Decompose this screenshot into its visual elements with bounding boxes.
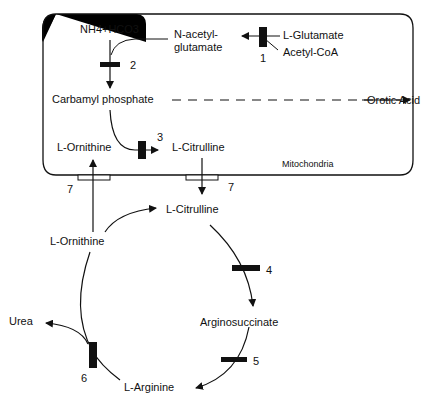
- enzyme-2-label: 2: [130, 59, 136, 71]
- enzyme-5-label: 5: [253, 355, 259, 367]
- metabolite-l-ornithine-cyto: L-Ornithine: [50, 235, 104, 247]
- metabolite-nh4-hco3: NH4+HCO3: [80, 23, 139, 35]
- metabolite-carbamyl-phosphate: Carbamyl phosphate: [52, 93, 154, 105]
- enzyme-3-bar: [138, 141, 146, 159]
- enzyme-1-label: 1: [260, 52, 266, 64]
- enzyme-6-label: 6: [81, 372, 87, 384]
- enzyme-1-bar: [259, 27, 267, 47]
- enzyme-3-label: 3: [157, 131, 163, 143]
- transporter-7-ornithine: [78, 175, 110, 180]
- metabolite-n-acetyl-glutamate-line1: N-acetyl-: [174, 28, 218, 40]
- enzyme-7-label-ornithine: 7: [67, 183, 73, 195]
- enzyme-4-label: 4: [266, 264, 272, 276]
- metabolite-n-acetyl-glutamate-line2: glutamate: [174, 41, 222, 53]
- enzyme-4-bar: [232, 265, 260, 271]
- enzyme-5-bar: [221, 357, 247, 362]
- metabolite-urea: Urea: [9, 315, 33, 327]
- enzyme-2-bar: [100, 62, 120, 67]
- metabolite-l-ornithine-mito: L-Ornithine: [57, 141, 111, 153]
- metabolite-l-citrulline-cyto: L-Citrulline: [166, 203, 219, 215]
- metabolite-l-citrulline-mito: L-Citrulline: [172, 141, 225, 153]
- metabolite-l-arginine: L-Arginine: [124, 381, 174, 393]
- metabolite-orotic-acid: Orotic Acid: [367, 94, 420, 106]
- enzyme-7-label-citrulline: 7: [228, 181, 234, 193]
- enzyme-6-bar: [89, 342, 97, 368]
- metabolite-l-glutamate: L-Glutamate: [283, 29, 344, 41]
- compartment-label-mitochondria: Mitochondria: [282, 158, 334, 170]
- metabolite-arginosuccinate: Arginosuccinate: [200, 316, 278, 328]
- metabolite-acetyl-coa: Acetyl-CoA: [283, 46, 338, 58]
